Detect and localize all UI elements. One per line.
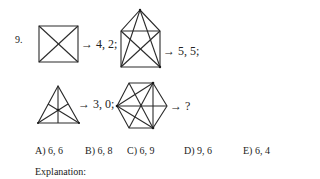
- option-b[interactable]: B) 6, 8: [85, 145, 113, 156]
- triangle-figure: [37, 86, 80, 124]
- figure-3-result: → 3, 0;: [78, 97, 114, 111]
- hexagon-figure: [116, 82, 167, 130]
- house-star-figure: [121, 9, 161, 68]
- figure-4-result: → ?: [170, 99, 190, 113]
- figure-2-result: → 5, 5;: [163, 44, 199, 58]
- option-c[interactable]: C) 6, 9: [127, 145, 155, 156]
- figure-1-result: → 4, 2;: [81, 37, 117, 51]
- option-a[interactable]: A) 6, 6: [35, 145, 63, 156]
- option-d[interactable]: D) 9, 6: [184, 145, 212, 156]
- option-e[interactable]: E) 6, 4: [243, 145, 270, 156]
- square-figure: [39, 26, 78, 62]
- explanation-label: Explanation:: [35, 166, 86, 177]
